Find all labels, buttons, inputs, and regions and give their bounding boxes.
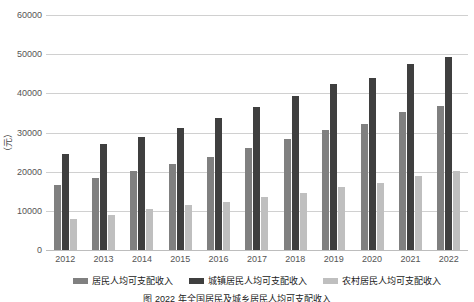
bar bbox=[399, 112, 406, 250]
x-axis-tick-label: 2015 bbox=[161, 252, 199, 266]
y-axis-tick-label: 0 bbox=[0, 246, 42, 255]
x-axis-tick-label: 2020 bbox=[353, 252, 391, 266]
y-axis-tick-label: 50000 bbox=[0, 50, 42, 59]
x-axis-tick-label: 2019 bbox=[315, 252, 353, 266]
bar bbox=[223, 202, 230, 250]
bar bbox=[369, 78, 376, 250]
bar bbox=[338, 187, 345, 250]
bar bbox=[100, 144, 107, 250]
bar bbox=[146, 209, 153, 250]
bar bbox=[92, 178, 99, 250]
x-axis-tick-label: 2018 bbox=[276, 252, 314, 266]
legend-item-label: 农村居民人均可支配收入 bbox=[342, 276, 441, 286]
bar-group bbox=[238, 15, 276, 250]
x-axis-tick-label: 2022 bbox=[430, 252, 468, 266]
bar-group bbox=[430, 15, 468, 250]
x-axis-tick-label: 2014 bbox=[123, 252, 161, 266]
bar bbox=[330, 84, 337, 250]
plot-area: 6000050000400003000020000100000 bbox=[46, 15, 468, 250]
bar bbox=[130, 171, 137, 250]
bar bbox=[138, 137, 145, 250]
legend-swatch-icon bbox=[189, 278, 204, 284]
bar-group bbox=[276, 15, 314, 250]
x-axis-tick-label: 2013 bbox=[84, 252, 122, 266]
legend-item[interactable]: 城镇居民人均可支配收入 bbox=[189, 276, 307, 286]
y-axis-tick-label: 30000 bbox=[0, 129, 42, 138]
x-axis-tick-label: 2012 bbox=[46, 252, 84, 266]
y-axis-tick-label: 40000 bbox=[0, 89, 42, 98]
bar bbox=[322, 130, 329, 250]
bar-group bbox=[46, 15, 84, 250]
bar bbox=[292, 96, 299, 250]
bar bbox=[437, 106, 444, 250]
bar bbox=[70, 219, 77, 250]
chart-legend: 居民人均可支配收入城镇居民人均可支配收入农村居民人均可支配收入 bbox=[46, 274, 468, 288]
legend-item[interactable]: 农村居民人均可支配收入 bbox=[323, 276, 441, 286]
y-axis-tick-label: 20000 bbox=[0, 168, 42, 177]
bar bbox=[261, 197, 268, 250]
x-axis: 2012201320142015201620172018201920202021… bbox=[46, 252, 468, 266]
bar bbox=[62, 154, 69, 250]
x-axis-tick-label: 2016 bbox=[199, 252, 237, 266]
bar bbox=[415, 176, 422, 250]
bar bbox=[215, 118, 222, 250]
y-axis-tick-label: 60000 bbox=[0, 11, 42, 20]
legend-item-label: 城镇居民人均可支配收入 bbox=[208, 276, 307, 286]
legend-item-label: 居民人均可支配收入 bbox=[92, 276, 173, 286]
bar-group bbox=[391, 15, 429, 250]
chart-container: （元） 6000050000400003000020000100000 2012… bbox=[0, 0, 474, 302]
bar-group bbox=[353, 15, 391, 250]
bar bbox=[284, 139, 291, 250]
bar bbox=[453, 171, 460, 250]
bar bbox=[177, 128, 184, 250]
legend-item[interactable]: 居民人均可支配收入 bbox=[73, 276, 173, 286]
bar bbox=[54, 185, 61, 250]
y-axis-tick-label: 10000 bbox=[0, 207, 42, 216]
bar bbox=[207, 157, 214, 250]
legend-swatch-icon bbox=[323, 278, 338, 284]
bar-groups-layer bbox=[46, 15, 468, 250]
x-axis-tick-label: 2021 bbox=[391, 252, 429, 266]
bar-group bbox=[315, 15, 353, 250]
bar bbox=[445, 57, 452, 250]
bar-group bbox=[84, 15, 122, 250]
bar bbox=[108, 215, 115, 250]
bar bbox=[169, 164, 176, 250]
bar bbox=[407, 64, 414, 250]
bar bbox=[185, 205, 192, 250]
y-axis-title: （元） bbox=[1, 113, 14, 173]
x-axis-tick-label: 2017 bbox=[238, 252, 276, 266]
bar bbox=[245, 148, 252, 250]
bar bbox=[377, 183, 384, 250]
bar bbox=[361, 124, 368, 250]
bar bbox=[253, 107, 260, 250]
bar-group bbox=[199, 15, 237, 250]
gridline bbox=[46, 250, 468, 251]
legend-swatch-icon bbox=[73, 278, 88, 284]
bar bbox=[300, 193, 307, 250]
bar-group bbox=[161, 15, 199, 250]
bar-group bbox=[123, 15, 161, 250]
figure-caption: 图 2022 年全国居民及城乡居民人均可支配收入 bbox=[0, 292, 474, 302]
